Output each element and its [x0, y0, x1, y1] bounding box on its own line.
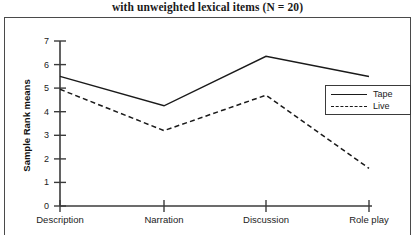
plot-area [0, 0, 415, 235]
chart-legend: Tape Live [325, 85, 411, 115]
series-line-live [60, 89, 369, 168]
y-tick-label-0: 0 [33, 201, 49, 211]
y-axis-title: Sample Rank means [21, 56, 32, 196]
legend-label-live: Live [368, 101, 390, 111]
series-line-tape [60, 56, 369, 106]
x-tick-label-description: Description [20, 214, 100, 225]
chart-container: with unweighted lexical items (N = 20) [0, 0, 415, 235]
y-tick-label-5: 5 [33, 83, 49, 93]
legend-item-tape: Tape [330, 88, 406, 100]
y-tick-label-1: 1 [33, 177, 49, 187]
y-tick-label-4: 4 [33, 107, 49, 117]
y-tick-label-7: 7 [33, 36, 49, 46]
y-tick-label-3: 3 [33, 130, 49, 140]
legend-swatch-dashed-icon [330, 101, 368, 111]
x-tick-label-role-play: Role play [329, 214, 409, 225]
x-tick-label-discussion: Discussion [226, 214, 306, 225]
legend-item-live: Live [330, 100, 406, 112]
legend-label-tape: Tape [368, 89, 393, 99]
x-tick-label-narration: Narration [124, 214, 204, 225]
y-tick-label-6: 6 [33, 60, 49, 70]
legend-swatch-solid-icon [330, 89, 368, 99]
y-tick-label-2: 2 [33, 154, 49, 164]
